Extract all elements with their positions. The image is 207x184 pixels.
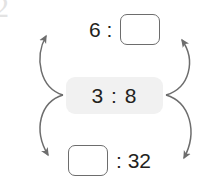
top-row-left-value: 6 : [89,19,112,40]
arrow-center-to-top-left [40,36,63,95]
given-ratio-pill: 3 : 8 [66,77,163,114]
given-ratio-text: 3 : 8 [92,85,138,106]
ratio-row-bottom: : 32 [68,145,151,176]
bottom-row-right-value: : 32 [116,150,151,171]
top-row-answer-box[interactable] [120,14,160,45]
ratio-diagram-canvas: 2 6 : 3 : 8 : 32 [0,0,207,184]
ratio-row-top: 6 : [89,14,160,45]
arrow-center-to-bottom-left [40,95,63,155]
bottom-row-answer-box[interactable] [68,145,108,176]
arrow-center-to-bottom-right [166,95,191,158]
arrow-center-to-top-right [166,40,189,95]
